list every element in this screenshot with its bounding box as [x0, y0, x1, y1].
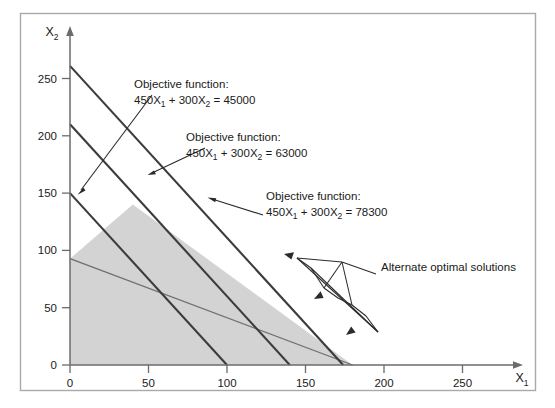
x-tick-label-200: 200 [374, 377, 393, 389]
x-tick-label-0: 0 [67, 377, 73, 389]
y-tick-label-150: 150 [38, 187, 57, 199]
lp-graph-svg: 0 50 100 150 200 250 0 50 100 150 200 25… [0, 0, 555, 408]
y-tick-label-250: 250 [38, 73, 57, 85]
y-tick-label-50: 50 [44, 302, 57, 314]
x-tick-label-250: 250 [453, 377, 472, 389]
annotation-63000-line1: Objective function: [186, 131, 281, 143]
y-tick-label-100: 100 [38, 244, 57, 256]
x-tick-label-50: 50 [142, 377, 155, 389]
annotation-alternate-optima: Alternate optimal solutions [381, 261, 516, 273]
figure-canvas: 0 50 100 150 200 250 0 50 100 150 200 25… [0, 0, 555, 408]
y-tick-label-0: 0 [51, 359, 57, 371]
annotation-45000-line1: Objective function: [134, 78, 229, 90]
y-tick-label-200: 200 [38, 130, 57, 142]
annotation-78300-line1: Objective function: [266, 190, 361, 202]
x-tick-label-100: 100 [217, 377, 236, 389]
x-tick-label-150: 150 [296, 377, 315, 389]
